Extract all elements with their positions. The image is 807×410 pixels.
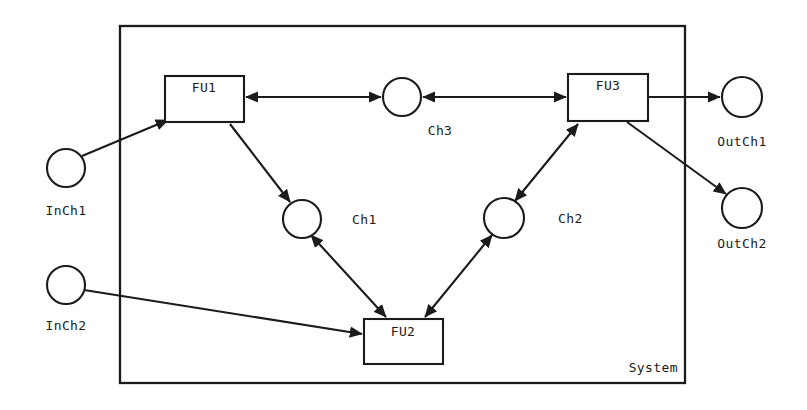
channel-node-ch2[interactable]: Ch2 — [484, 198, 583, 238]
edge-fu3-to-outch2 — [627, 122, 726, 194]
functional-unit-fu2[interactable]: FU2 — [364, 319, 443, 364]
edge-inch2-to-fu2 — [84, 290, 362, 334]
channel-node-ch3[interactable]: Ch3 — [383, 78, 452, 138]
channel-circle-ch1[interactable] — [283, 200, 321, 238]
channel-circle-outch1[interactable] — [722, 77, 762, 117]
functional-unit-fu1[interactable]: FU1 — [165, 76, 244, 122]
channel-node-inch2[interactable]: InCh2 — [45, 266, 86, 333]
channel-circle-inch2[interactable] — [47, 266, 85, 304]
unit-label-fu3: FU3 — [596, 78, 621, 93]
channel-label-inch1: InCh1 — [45, 203, 86, 218]
channel-circle-ch3[interactable] — [383, 78, 421, 116]
functional-unit-fu3[interactable]: FU3 — [568, 74, 648, 121]
diagram-canvas: System Ch1Ch2Ch3InCh1InCh2OutCh1OutCh2 F… — [0, 0, 807, 410]
channel-node-outch1[interactable]: OutCh1 — [717, 77, 766, 149]
channel-node-ch1[interactable]: Ch1 — [283, 200, 377, 238]
channel-label-ch3: Ch3 — [428, 123, 453, 138]
edge-ch1-to-fu2 — [311, 235, 386, 317]
edges-group — [82, 97, 726, 334]
unit-label-fu1: FU1 — [192, 80, 217, 95]
channel-node-outch2[interactable]: OutCh2 — [717, 188, 766, 251]
system-label: System — [629, 360, 678, 375]
unit-label-fu2: FU2 — [391, 324, 416, 339]
channel-label-outch2: OutCh2 — [717, 236, 766, 251]
channel-circle-inch1[interactable] — [47, 149, 85, 187]
edge-inch1-to-fu1 — [82, 120, 168, 156]
channel-label-inch2: InCh2 — [45, 318, 86, 333]
channel-circle-ch2[interactable] — [484, 198, 524, 238]
channel-node-inch1[interactable]: InCh1 — [45, 149, 86, 218]
diagram-root: System Ch1Ch2Ch3InCh1InCh2OutCh1OutCh2 F… — [0, 0, 807, 410]
channel-label-ch1: Ch1 — [352, 212, 377, 227]
channel-label-ch2: Ch2 — [558, 211, 583, 226]
edge-fu2-to-ch2 — [425, 235, 492, 317]
channels-group: Ch1Ch2Ch3InCh1InCh2OutCh1OutCh2 — [45, 77, 766, 333]
channel-circle-outch2[interactable] — [722, 188, 762, 228]
edge-fu1-to-ch1 — [230, 124, 290, 202]
channel-label-outch1: OutCh1 — [717, 134, 766, 149]
edge-ch2-to-fu3 — [515, 124, 578, 201]
